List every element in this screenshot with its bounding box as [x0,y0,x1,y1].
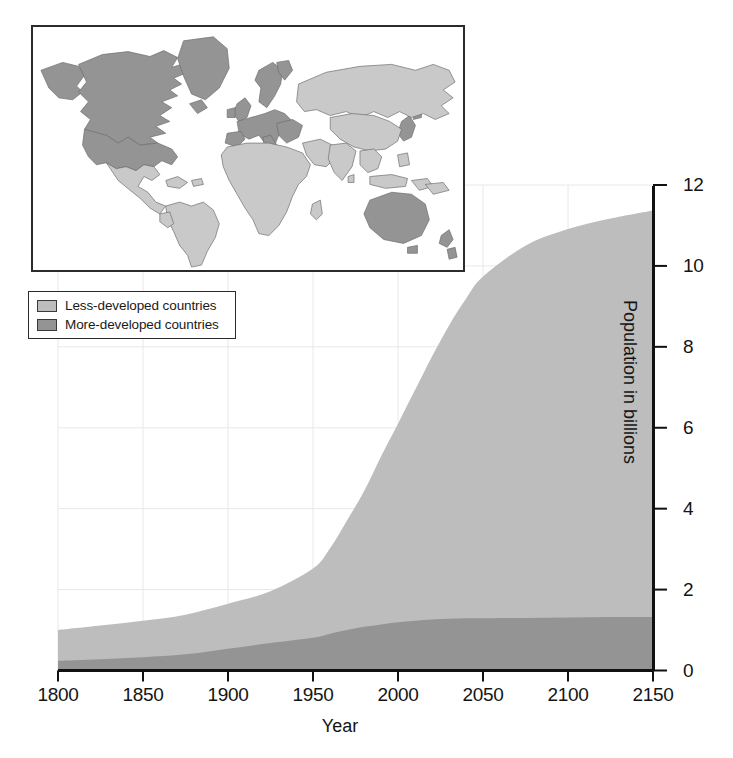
x-tick-label-2100: 2100 [547,684,588,706]
legend-swatch-less-developed [37,300,57,312]
x-axis-title: Year [0,716,680,737]
world-map-svg [33,27,463,270]
population-projection-figure: Less-developed countries More-developed … [0,0,733,758]
chart-legend: Less-developed countries More-developed … [28,291,236,339]
y-axis-ticks [653,185,667,671]
y-tick-label-4: 4 [683,498,693,520]
x-tick-label-1850: 1850 [122,684,163,706]
x-tick-label-1800: 1800 [37,684,78,706]
x-tick-label-1950: 1950 [292,684,333,706]
legend-swatch-more-developed [37,319,57,331]
y-tick-label-2: 2 [683,579,693,601]
y-tick-label-12: 12 [683,174,704,196]
legend-item-less-developed: Less-developed countries [37,296,229,315]
world-map-inset [31,25,465,272]
legend-item-more-developed: More-developed countries [37,315,229,334]
y-tick-label-8: 8 [683,336,693,358]
x-tick-label-2000: 2000 [377,684,418,706]
x-tick-label-2150: 2150 [632,684,673,706]
y-tick-label-0: 0 [683,660,693,682]
x-tick-label-1900: 1900 [207,684,248,706]
x-tick-label-2050: 2050 [462,684,503,706]
legend-label-less-developed: Less-developed countries [65,298,216,313]
y-tick-label-6: 6 [683,417,693,439]
x-axis-ticks [58,671,653,682]
legend-label-more-developed: More-developed countries [65,317,219,332]
area-less-developed-countries [58,210,653,670]
y-tick-label-10: 10 [683,255,704,277]
y-axis-title: Population in billions [619,300,640,560]
